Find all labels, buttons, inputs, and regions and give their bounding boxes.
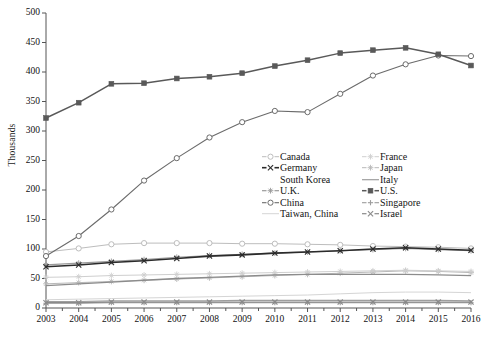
y-axis-title: Thousands: [7, 100, 17, 190]
y-tick-label: 350: [6, 97, 40, 107]
legend-item-label: Canada: [280, 151, 310, 162]
legend-marker-icon: [362, 174, 379, 185]
legend-item[interactable]: Taiwan, China: [262, 208, 360, 219]
y-tick-label: 50: [6, 274, 40, 284]
legend-item-label: Italy: [380, 174, 398, 185]
y-tick-label: 0: [6, 303, 40, 313]
y-tick-label: 100: [6, 244, 40, 254]
legend-item[interactable]: Canada: [262, 151, 360, 162]
legend-marker-icon: [262, 151, 279, 162]
legend-item[interactable]: Israel: [362, 208, 442, 219]
x-tick-label: 2016: [451, 315, 485, 325]
y-tick-label: 250: [6, 156, 40, 166]
legend-item[interactable]: Germany: [262, 162, 360, 173]
y-tick-label: 300: [6, 126, 40, 136]
legend-item[interactable]: France: [362, 151, 442, 162]
y-tick-label: 150: [6, 215, 40, 225]
legend-item[interactable]: South Korea: [262, 174, 360, 185]
legend-marker-icon: [262, 208, 279, 219]
series-france: [43, 267, 474, 280]
legend-item[interactable]: Japan: [362, 162, 442, 173]
series-u-s: [44, 45, 474, 120]
legend-item-label: Israel: [380, 208, 402, 219]
y-tick-label: 200: [6, 185, 40, 195]
y-tick-label: 450: [6, 38, 40, 48]
legend-item[interactable]: Singapore: [362, 197, 442, 208]
legend-item-label: U.S.: [380, 185, 398, 196]
legend-marker-icon: [362, 185, 379, 196]
legend-item-label: Singapore: [380, 197, 421, 208]
legend-item-label: Japan: [380, 162, 403, 173]
legend-item-label: Taiwan, China: [280, 208, 338, 219]
legend-item[interactable]: U.K.: [262, 185, 360, 196]
legend-column-left: CanadaGermanySouth KoreaU.K.ChinaTaiwan,…: [262, 151, 360, 219]
legend-column-right: FranceJapanItalyU.S.SingaporeIsrael: [362, 151, 442, 219]
legend-marker-icon: [262, 197, 279, 208]
legend-item-label: China: [280, 197, 304, 208]
legend-item[interactable]: U.S.: [362, 185, 442, 196]
legend-item-label: South Korea: [280, 174, 330, 185]
legend-item[interactable]: China: [262, 197, 360, 208]
legend-item[interactable]: Italy: [362, 174, 442, 185]
series-taiwan-china: [46, 292, 471, 300]
legend-marker-icon: [362, 208, 379, 219]
legend-marker-icon: [362, 162, 379, 173]
y-tick-label: 500: [6, 8, 40, 18]
legend-marker-icon: [262, 162, 279, 173]
legend-marker-icon: [262, 185, 279, 196]
legend-item-label: France: [380, 151, 407, 162]
series-u-k: [43, 246, 474, 268]
legend-item-label: Germany: [280, 162, 317, 173]
y-tick-label: 400: [6, 67, 40, 77]
legend-item-label: U.K.: [280, 185, 299, 196]
legend-marker-icon: [362, 197, 379, 208]
legend-marker-icon: [362, 151, 379, 162]
